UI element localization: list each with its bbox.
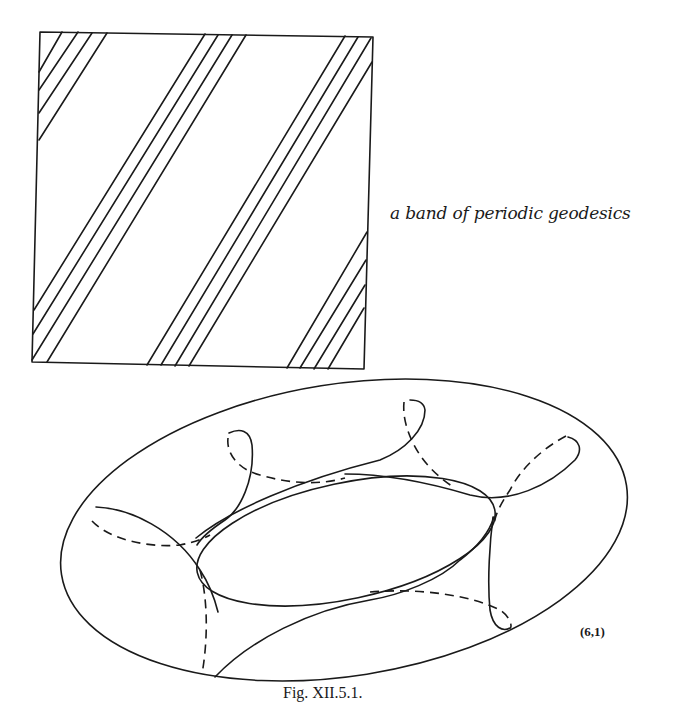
figure-caption: Fig. XII.5.1. bbox=[283, 684, 363, 702]
torus-knot-label: (6,1) bbox=[580, 624, 605, 640]
band-label: a band of periodic geodesics bbox=[390, 203, 631, 223]
torus-outer-outline bbox=[39, 341, 650, 718]
torus-curve-front bbox=[96, 400, 579, 677]
flat-torus-square bbox=[32, 32, 373, 369]
geodesic-band-middle-1 bbox=[32, 34, 246, 362]
torus-curve-back bbox=[92, 402, 566, 674]
torus-drawing bbox=[39, 341, 650, 718]
geodesic-band-top-left bbox=[39, 32, 107, 140]
geodesic-band-middle-2 bbox=[147, 36, 372, 366]
torus-inner-hole bbox=[185, 453, 506, 630]
geodesic-band-bottom-right bbox=[287, 232, 367, 369]
figure-page: a band of periodic geodesics (6,1) Fig. … bbox=[0, 0, 689, 718]
figure-graphics bbox=[0, 0, 689, 718]
